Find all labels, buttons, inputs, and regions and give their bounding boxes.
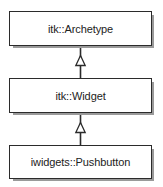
- class-name-pushbutton: iwidgets::Pushbutton: [31, 156, 131, 168]
- class-box-widget[interactable]: itk::Widget: [9, 78, 152, 113]
- class-name-widget: itk::Widget: [55, 90, 105, 102]
- uml-class-diagram: itk::Archetype itk::Widget iwidgets::Pus…: [0, 0, 163, 187]
- class-box-archetype[interactable]: itk::Archetype: [9, 11, 152, 46]
- class-name-archetype: itk::Archetype: [48, 23, 113, 35]
- generalization-arrow-to-archetype: [76, 56, 85, 66]
- generalization-arrow-to-widget: [76, 123, 85, 133]
- class-box-pushbutton[interactable]: iwidgets::Pushbutton: [9, 145, 152, 179]
